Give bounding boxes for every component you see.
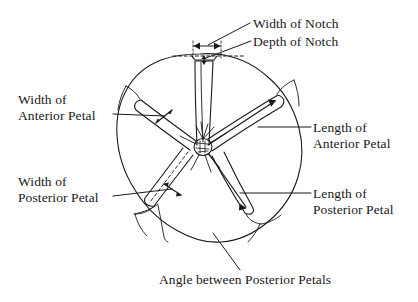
valve-outline: [117, 54, 302, 243]
length-of-posterior-petal-arrow: [209, 154, 247, 210]
leader-width-of-notch: [208, 23, 250, 45]
label-length-of-anterior-petal: Length of Anterior Petal: [313, 120, 391, 151]
label-length-of-posterior-petal-line2: Posterior Petal: [313, 202, 394, 218]
width-of-notch-extension-ticks: [193, 41, 221, 58]
label-length-of-posterior-petal-line1: Length of: [313, 186, 394, 202]
leader-angle-between-posterior-petals: [213, 233, 240, 270]
label-depth-of-notch: Depth of Notch: [253, 34, 338, 50]
label-width-of-anterior-petal-line1: Width of: [18, 92, 96, 108]
label-length-of-posterior-petal: Length of Posterior Petal: [313, 186, 394, 217]
tissue-line-lower-right: [248, 215, 281, 242]
valve-diagram: [0, 0, 418, 302]
petal-top: [195, 61, 213, 145]
width-of-notch-arrow: [194, 43, 221, 50]
figure-canvas: Width of Notch Depth of Notch Width of A…: [0, 0, 418, 302]
label-width-of-posterior-petal-line2: Posterior Petal: [18, 190, 99, 206]
label-width-of-anterior-petal-line2: Anterior Petal: [18, 108, 96, 124]
central-hub-texture: [196, 141, 209, 153]
label-angle-between-posterior-petals-line1: Angle between Posterior Petals: [159, 272, 331, 288]
leader-width-of-posterior-petal: [113, 189, 172, 196]
label-width-of-notch: Width of Notch: [253, 16, 339, 32]
label-width-of-posterior-petal-line1: Width of: [18, 174, 99, 190]
label-width-of-anterior-petal: Width of Anterior Petal: [18, 92, 96, 123]
label-width-of-notch-line1: Width of Notch: [253, 16, 339, 32]
petal-upper-left-anterior: [135, 100, 196, 150]
petal-lower-left-axis-dashed: [150, 152, 188, 202]
label-length-of-anterior-petal-line2: Anterior Petal: [313, 136, 391, 152]
hub-fan-lines: [180, 122, 226, 172]
tissue-line-lower-left: [134, 204, 158, 236]
label-width-of-posterior-petal: Width of Posterior Petal: [18, 174, 99, 205]
label-depth-of-notch-line1: Depth of Notch: [253, 34, 338, 50]
tissue-line-right-commissure: [294, 80, 299, 106]
petal-lower-right-posterior: [212, 152, 253, 214]
petal-upper-right-commissure: [277, 80, 294, 94]
length-of-anterior-petal-arrow: [208, 100, 276, 146]
label-length-of-anterior-petal-line1: Length of: [313, 120, 391, 136]
label-angle-between-posterior-petals: Angle between Posterior Petals: [159, 272, 331, 288]
leader-width-of-anterior-petal: [113, 114, 165, 116]
petal-lower-right-commissure: [246, 214, 261, 224]
